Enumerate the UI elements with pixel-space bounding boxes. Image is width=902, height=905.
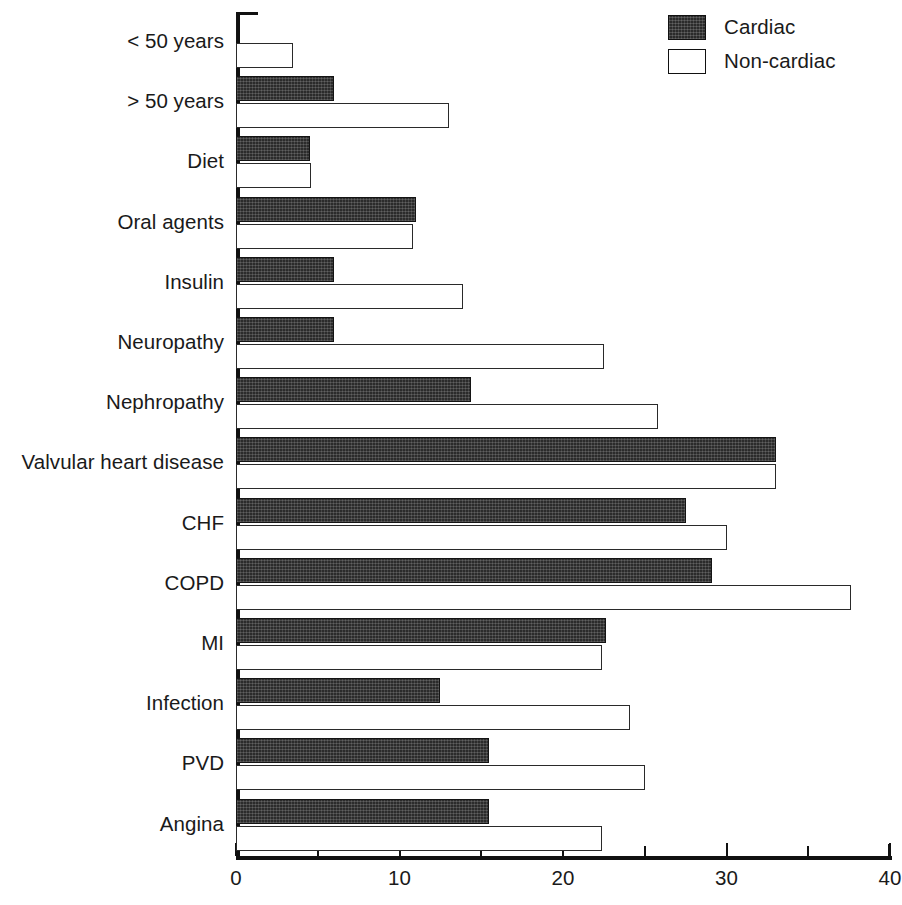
- bar-cardiac: [236, 197, 416, 222]
- x-tick-label: 40: [879, 866, 902, 890]
- x-tick-label: 20: [552, 866, 575, 890]
- bar-cardiac: [236, 377, 471, 402]
- category-label: Nephropathy: [0, 390, 224, 414]
- bar-cardiac: [236, 618, 606, 643]
- category-label: > 50 years: [0, 89, 224, 113]
- category-label: Oral agents: [0, 210, 224, 234]
- bar-non-cardiac: [236, 645, 602, 670]
- category-label: Neuropathy: [0, 330, 224, 354]
- category-label: Angina: [0, 812, 224, 836]
- category-label: CHF: [0, 511, 224, 535]
- bar-cardiac: [236, 257, 334, 282]
- horizontal-grouped-bar-chart: Cardiac Non-cardiac 010203040 < 50 years…: [0, 0, 902, 905]
- chart-legend: Cardiac Non-cardiac: [668, 10, 898, 78]
- category-label: COPD: [0, 571, 224, 595]
- legend-swatch-cardiac-icon: [668, 15, 706, 40]
- legend-item-cardiac: Cardiac: [668, 10, 898, 44]
- bar-cardiac: [236, 678, 440, 703]
- bar-cardiac: [236, 317, 334, 342]
- bar-cardiac: [236, 437, 776, 462]
- bar-non-cardiac: [236, 224, 413, 249]
- bar-non-cardiac: [236, 344, 604, 369]
- bar-non-cardiac: [236, 585, 851, 610]
- x-tick-major: [889, 843, 891, 856]
- bar-non-cardiac: [236, 284, 463, 309]
- bar-non-cardiac: [236, 464, 776, 489]
- bar-cardiac: [236, 498, 686, 523]
- x-tick-label: 30: [715, 866, 738, 890]
- bar-non-cardiac: [236, 525, 727, 550]
- bar-non-cardiac: [236, 765, 645, 790]
- category-label: PVD: [0, 751, 224, 775]
- x-tick-label: 10: [388, 866, 411, 890]
- legend-label-cardiac: Cardiac: [724, 15, 795, 39]
- bar-non-cardiac: [236, 103, 449, 128]
- x-tick-minor: [807, 846, 809, 856]
- category-label: Insulin: [0, 270, 224, 294]
- category-label: MI: [0, 631, 224, 655]
- bar-non-cardiac: [236, 163, 311, 188]
- legend-label-non-cardiac: Non-cardiac: [724, 49, 836, 73]
- x-axis-line: [236, 856, 892, 860]
- bar-cardiac: [236, 16, 237, 41]
- bar-cardiac: [236, 558, 712, 583]
- bar-cardiac: [236, 738, 489, 763]
- legend-item-non-cardiac: Non-cardiac: [668, 44, 898, 78]
- bar-non-cardiac: [236, 43, 293, 68]
- bar-cardiac: [236, 136, 310, 161]
- bar-non-cardiac: [236, 826, 602, 851]
- bar-cardiac: [236, 799, 489, 824]
- x-tick-label: 0: [230, 866, 241, 890]
- category-label: Diet: [0, 149, 224, 173]
- category-label: Valvular heart disease: [0, 450, 224, 474]
- bar-non-cardiac: [236, 404, 658, 429]
- x-tick-minor: [644, 846, 646, 856]
- legend-swatch-non-cardiac-icon: [668, 49, 706, 74]
- y-axis-top-cap: [236, 12, 258, 15]
- category-label: Infection: [0, 691, 224, 715]
- bar-non-cardiac: [236, 705, 630, 730]
- category-label: < 50 years: [0, 29, 224, 53]
- bar-cardiac: [236, 76, 334, 101]
- x-tick-major: [726, 843, 728, 856]
